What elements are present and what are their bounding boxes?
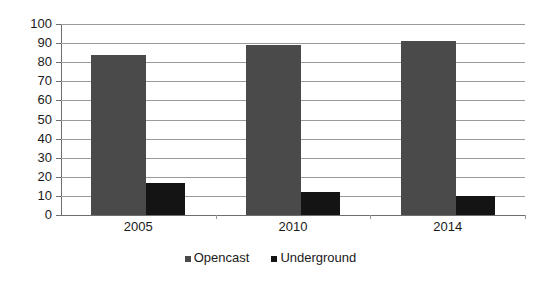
x-axis-label-2005: 2005 xyxy=(78,219,198,234)
bar-opencast-2010 xyxy=(246,45,301,215)
gridline xyxy=(61,24,525,25)
x-axis-tick xyxy=(216,215,217,219)
gridline xyxy=(61,215,525,216)
y-axis-label: 0 xyxy=(6,208,52,221)
y-axis-tick xyxy=(56,158,61,159)
bar-chart: 1009080706050403020100 OpencastUndergrou… xyxy=(0,0,541,284)
y-axis-label: 40 xyxy=(6,132,52,145)
bar-underground-2005 xyxy=(146,183,185,215)
y-axis-label: 100 xyxy=(6,17,52,30)
y-axis-tick xyxy=(56,62,61,63)
y-axis-tick xyxy=(56,139,61,140)
y-axis-tick xyxy=(56,177,61,178)
y-axis-tick xyxy=(56,81,61,82)
x-axis-tick xyxy=(370,215,371,219)
y-axis-tick xyxy=(56,100,61,101)
y-axis-tick xyxy=(56,43,61,44)
y-axis-tick xyxy=(56,120,61,121)
legend-label: Underground xyxy=(280,250,356,265)
y-axis-labels: 1009080706050403020100 xyxy=(0,0,52,284)
chart-legend: OpencastUnderground xyxy=(0,250,541,265)
plot-area xyxy=(61,24,525,215)
y-axis-label: 60 xyxy=(6,93,52,106)
bar-opencast-2014 xyxy=(401,41,456,215)
x-axis-tick xyxy=(525,215,526,219)
y-axis-tick xyxy=(56,215,61,216)
legend-entry-opencast[interactable]: Opencast xyxy=(185,250,250,265)
legend-label: Opencast xyxy=(194,250,250,265)
x-axis-label-2010: 2010 xyxy=(233,219,353,234)
y-axis-tick xyxy=(56,196,61,197)
y-axis-label: 70 xyxy=(6,74,52,87)
legend-swatch-icon xyxy=(271,256,277,262)
bar-opencast-2005 xyxy=(91,55,146,215)
legend-swatch-icon xyxy=(185,256,191,262)
y-axis-tick xyxy=(56,24,61,25)
y-axis-label: 20 xyxy=(6,170,52,183)
y-axis-label: 90 xyxy=(6,36,52,49)
chart-title xyxy=(0,0,541,3)
y-axis-label: 30 xyxy=(6,151,52,164)
bar-underground-2014 xyxy=(456,196,495,215)
y-axis-label: 50 xyxy=(6,113,52,126)
y-axis-label: 10 xyxy=(6,189,52,202)
legend-entry-underground[interactable]: Underground xyxy=(271,250,356,265)
bar-underground-2010 xyxy=(301,192,340,215)
y-axis-label: 80 xyxy=(6,55,52,68)
x-axis-label-2014: 2014 xyxy=(388,219,508,234)
